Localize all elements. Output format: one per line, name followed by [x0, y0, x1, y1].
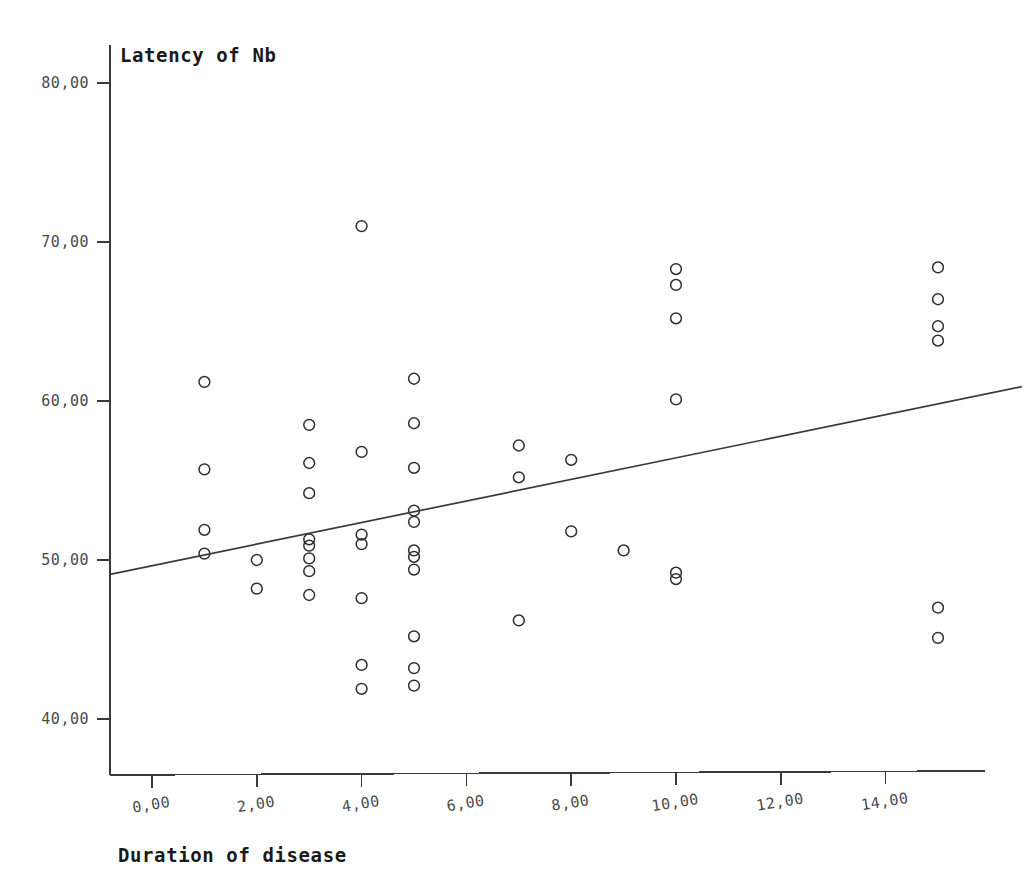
x-tick-label: 14,00: [860, 789, 910, 814]
data-point: [566, 454, 577, 465]
x-tick-label: 0,00: [131, 793, 171, 817]
x-tick-label: 4,00: [341, 792, 381, 816]
data-point: [513, 615, 524, 626]
data-point: [409, 680, 420, 691]
data-point: [356, 660, 367, 671]
data-point: [671, 567, 682, 578]
data-point: [671, 264, 682, 275]
data-point: [304, 553, 315, 564]
data-points: [199, 221, 943, 694]
data-point: [933, 602, 944, 613]
y-axis-title: Latency of Nb: [120, 44, 277, 66]
data-point: [304, 590, 315, 601]
x-tick-label: 12,00: [755, 789, 805, 814]
x-axis-line: [110, 771, 985, 775]
data-point: [409, 564, 420, 575]
data-point: [304, 540, 315, 551]
data-point: [356, 593, 367, 604]
y-tick-label: 50,00: [41, 551, 89, 569]
data-point: [618, 545, 629, 556]
regression-fit-line: [110, 387, 1022, 575]
data-point: [671, 394, 682, 405]
data-point: [409, 373, 420, 384]
x-axis-title: Duration of disease: [118, 844, 347, 866]
data-point: [566, 526, 577, 537]
x-tick-label: 6,00: [445, 792, 485, 816]
data-point: [933, 321, 944, 332]
y-axis-ticks: 40,0050,0060,0070,0080,00: [41, 74, 110, 728]
data-point: [409, 418, 420, 429]
data-point: [933, 633, 944, 644]
data-point: [409, 545, 420, 556]
data-point: [409, 551, 420, 562]
data-point: [409, 462, 420, 473]
data-point: [304, 488, 315, 499]
y-tick-label: 70,00: [41, 233, 89, 251]
data-point: [199, 524, 210, 535]
data-point: [356, 683, 367, 694]
scatter-plot-figure: 40,0050,0060,0070,0080,00 0,002,004,006,…: [0, 0, 1034, 890]
data-point: [933, 262, 944, 273]
data-point: [933, 294, 944, 305]
data-point: [409, 663, 420, 674]
x-tick-label: 10,00: [650, 790, 700, 815]
data-point: [304, 419, 315, 430]
x-axis-ticks: 0,002,004,006,008,0010,0012,0014,00: [131, 771, 910, 816]
data-point: [671, 574, 682, 585]
data-point: [199, 464, 210, 475]
data-point: [356, 446, 367, 457]
x-tick-label: 2,00: [236, 793, 276, 817]
data-point: [513, 440, 524, 451]
y-tick-label: 60,00: [41, 392, 89, 410]
y-tick-label: 80,00: [41, 74, 89, 92]
data-point: [933, 335, 944, 346]
data-point: [671, 280, 682, 291]
y-tick-label: 40,00: [41, 710, 89, 728]
data-point: [251, 583, 262, 594]
data-point: [409, 516, 420, 527]
data-point: [671, 313, 682, 324]
chart-canvas: 40,0050,0060,0070,0080,00 0,002,004,006,…: [0, 0, 1034, 890]
x-tick-label: 8,00: [550, 791, 590, 815]
data-point: [304, 534, 315, 545]
data-point: [409, 631, 420, 642]
data-point: [199, 377, 210, 388]
data-point: [304, 458, 315, 469]
data-point: [304, 566, 315, 577]
data-point: [513, 472, 524, 483]
data-point: [356, 221, 367, 232]
axes: [110, 45, 985, 775]
data-point: [251, 555, 262, 566]
